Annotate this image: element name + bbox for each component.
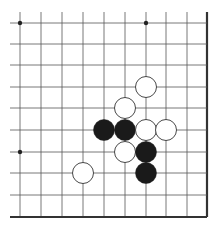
black-stone[interactable] <box>136 142 157 163</box>
star-point-icon <box>18 150 22 154</box>
white-stone[interactable] <box>136 120 157 141</box>
star-point-icon <box>144 21 148 25</box>
board-grid <box>10 12 207 217</box>
black-stone[interactable] <box>94 120 115 141</box>
black-stone[interactable] <box>115 120 136 141</box>
go-board-canvas[interactable] <box>0 0 212 226</box>
white-stone[interactable] <box>136 77 157 98</box>
white-stone[interactable] <box>156 120 177 141</box>
white-stone[interactable] <box>73 163 94 184</box>
go-board[interactable] <box>0 0 212 226</box>
black-stone[interactable] <box>136 163 157 184</box>
white-stone[interactable] <box>115 142 136 163</box>
white-stone[interactable] <box>115 98 136 119</box>
star-point-icon <box>18 21 22 25</box>
